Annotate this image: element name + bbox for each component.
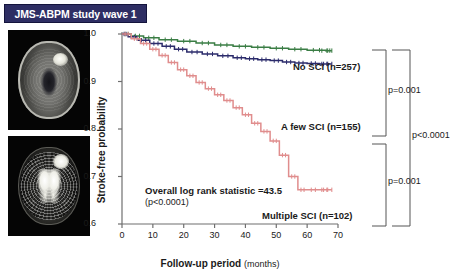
brain-outline	[18, 41, 80, 119]
study-title-banner: JMS-ABPM study wave 1	[4, 4, 147, 23]
x-tick-label: 10	[143, 230, 163, 240]
y-tick-label: 0.9	[72, 76, 96, 86]
x-tick-label: 60	[297, 230, 317, 240]
pvalue-bracket-group: p=0.001 p=0.001 p<0.0001	[366, 44, 444, 230]
curve-multiple-sci	[122, 34, 332, 190]
pvalue-no-vs-few: p=0.001	[388, 85, 421, 95]
ventricle-region	[37, 169, 61, 203]
logrank-statistic: Overall log rank statistic =43.5	[145, 185, 282, 197]
x-tick-label: 40	[235, 230, 255, 240]
y-tick-label: 0.7	[72, 171, 96, 181]
lesion-marker	[53, 154, 69, 169]
x-axis-title: Follow-up period (months)	[100, 258, 340, 269]
x-tick-label: 70	[328, 230, 348, 240]
bracket-few-vs-multiple	[372, 144, 386, 226]
bracket-no-vs-multiple	[392, 50, 410, 226]
mri-image-panel	[8, 30, 94, 242]
survival-curves	[122, 32, 332, 192]
y-tick-label: 1.0	[72, 28, 96, 38]
logrank-pvalue: (p<0.0001)	[145, 197, 282, 208]
y-tick-label: 0.6	[72, 218, 96, 228]
y-tick-label: 0.8	[72, 123, 96, 133]
x-tick-label: 50	[266, 230, 286, 240]
series-label-multiple-sci: Multiple SCI (n=102)	[262, 210, 353, 221]
lesion-marker	[53, 53, 68, 66]
pvalue-no-vs-multiple: p<0.0001	[412, 130, 450, 140]
x-tick-label: 20	[174, 230, 194, 240]
bracket-no-vs-few	[372, 50, 386, 136]
pvalue-few-vs-multiple: p=0.001	[388, 176, 421, 186]
x-tick-label: 30	[205, 230, 225, 240]
page-title: JMS-ABPM study wave 1	[14, 8, 136, 20]
brain-outline	[18, 147, 80, 225]
logrank-annotation: Overall log rank statistic =43.5 (p<0.00…	[145, 185, 282, 208]
series-label-a-few-sci: A few SCI (n=155)	[281, 121, 361, 132]
x-tick-label: 0	[112, 230, 132, 240]
ventricle-region	[41, 67, 58, 97]
series-label-no-sci: No SCI (n=257)	[293, 61, 360, 72]
